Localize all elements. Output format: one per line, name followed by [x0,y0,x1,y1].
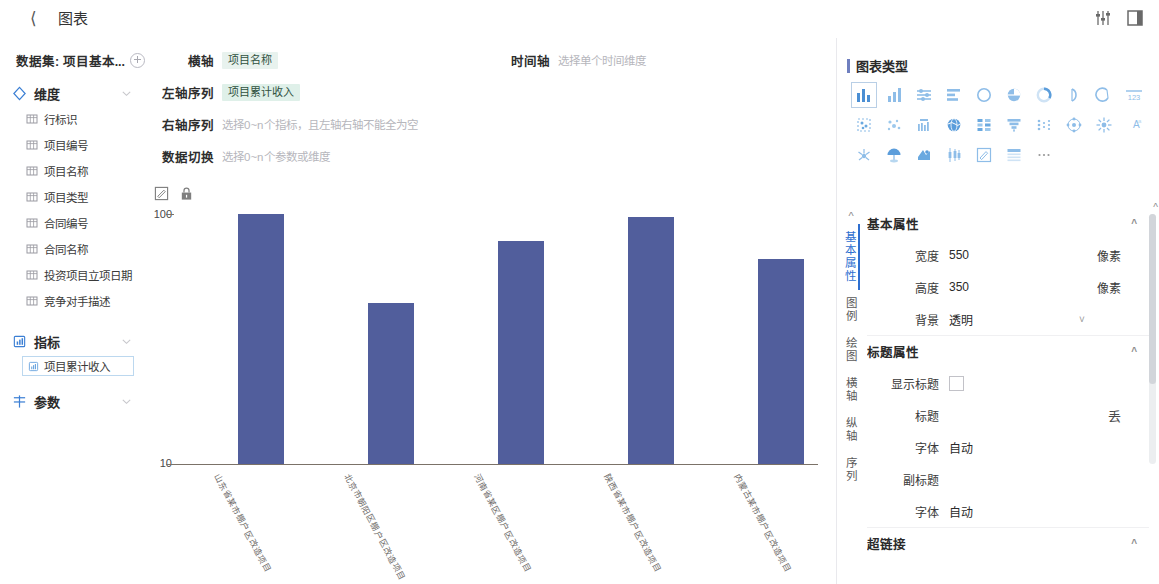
collapse-up-icon[interactable]: ^ [839,208,863,224]
chevron-down-icon[interactable] [121,88,132,99]
chart-type-stacked-grid[interactable] [971,112,997,138]
title-font-select[interactable]: 自动 [949,439,1149,456]
param-group: 参数 [0,388,148,414]
table-field-icon [26,295,38,307]
chart-type-text-edit[interactable] [971,142,997,168]
sidebar-item-metric[interactable]: 项目累计收入 [22,356,134,376]
property-row-width: 宽度 550 像素 [867,239,1149,271]
property-panel-scrollbar[interactable] [1149,214,1156,464]
chevron-up-icon[interactable]: ^ [1131,538,1137,549]
chart-type-number-123[interactable]: 123 [1121,82,1147,108]
chart-type-column-chart[interactable] [851,82,877,108]
chevron-up-icon[interactable]: ^ [1131,346,1137,357]
chevron-down-icon[interactable]: ˅ [1079,314,1097,325]
sidebar-item-dimension[interactable]: 合同编号 [0,210,148,236]
right-series-placeholder[interactable]: 选择0~n个指标，且左轴右轴不能全为空 [222,116,418,132]
x-axis-line [170,464,818,465]
bar-3[interactable] [628,217,674,464]
chart-type-radial-burst[interactable] [1091,112,1117,138]
sidebar-item-dimension[interactable]: 合同名称 [0,236,148,262]
subtitle-font-select[interactable]: 自动 [949,503,1149,520]
x-tick-label: 陕西省某市棚户区改造项目 [602,471,664,574]
chart-type-globe-map[interactable] [941,112,967,138]
property-label: 背景 [867,311,949,328]
chart-type-gauge-half[interactable] [1061,82,1087,108]
back-icon[interactable]: ⟨ [30,8,46,30]
bar-2[interactable] [498,241,544,464]
metric-group-header[interactable]: 指标 [0,328,148,354]
tab-y-axis[interactable]: 纵轴 [843,410,859,450]
chevron-up-icon[interactable]: ^ [1131,218,1137,229]
title-expression-icon[interactable]: 丢 [1108,406,1149,425]
x-axis-field-row: 横轴 项目名称 [158,50,278,70]
section-header-hyperlink[interactable]: 超链接 ^ [867,528,1149,559]
table-field-icon [26,139,38,151]
chevron-down-icon[interactable] [121,396,132,407]
chart-type-word-cloud[interactable]: Aa [1121,112,1147,138]
chevron-down-icon[interactable] [121,336,132,347]
chart-type-table[interactable] [1001,142,1027,168]
tab-x-axis[interactable]: 横轴 [843,370,859,410]
x-axis-value-chip[interactable]: 项目名称 [222,52,278,69]
left-series-value-chip[interactable]: 项目累计收入 [222,84,300,101]
x-tick-label: 内蒙古某市棚户区改造项目 [732,471,794,574]
data-switch-placeholder[interactable]: 选择0~n个参数或维度 [222,148,330,164]
bar-chart: 100 10 山东省某市棚户区改造项目 北京市朝阳区棚户区改造项目 河南省某区棚… [148,206,836,584]
property-row-background: 背景 透明 ˅ [867,303,1149,336]
chart-type-horizontal-bar[interactable] [941,82,967,108]
property-row-title-font: 字体 自动 [867,431,1149,463]
param-group-header[interactable]: 参数 [0,388,148,414]
chart-type-umbrella-tree[interactable] [881,142,907,168]
height-input[interactable]: 350 [949,280,1097,294]
right-series-field-row: 右轴序列 选择0~n个指标，且左轴右轴不能全为空 [158,114,418,134]
sidebar-item-dimension[interactable]: 项目类型 [0,184,148,210]
dataset-selector[interactable]: 数据集: 项目基本... [10,48,140,72]
tab-series[interactable]: 序列 [843,450,859,490]
layout-panel-icon[interactable] [1126,9,1144,27]
chart-type-bar-group[interactable] [881,82,907,108]
background-select[interactable]: 透明 [949,311,1079,328]
chart-type-pie-chart[interactable] [1001,82,1027,108]
sidebar-item-dimension[interactable]: 项目编号 [0,132,148,158]
property-label: 字体 [867,439,949,456]
chart-type-map-pin[interactable] [911,142,937,168]
data-switch-label: 数据切换 [158,147,214,166]
chart-type-donut-progress[interactable] [1031,82,1057,108]
chart-type-range-bar[interactable] [911,82,937,108]
property-unit: 像素 [1097,247,1149,264]
chart-type-gauge-arc[interactable] [1091,82,1117,108]
chart-type-funnel[interactable] [1001,112,1027,138]
chart-type-network-graph[interactable] [1061,112,1087,138]
scroll-up-icon[interactable]: ^ [1153,202,1158,213]
table-field-icon [26,269,38,281]
chart-type-sunburst[interactable] [851,142,877,168]
bar-4[interactable] [758,259,804,464]
chart-type-scatter-box[interactable] [851,112,877,138]
chart-type-candlestick[interactable] [941,142,967,168]
scrollbar-thumb[interactable] [1149,214,1156,384]
dimension-group-header[interactable]: 维度 [0,80,148,106]
time-axis-placeholder[interactable]: 选择单个时间维度 [558,52,646,68]
chart-type-bubble-scatter[interactable] [881,112,907,138]
tab-basic-properties[interactable]: 基本属性 [842,224,860,290]
section-header-basic[interactable]: 基本属性 ^ [867,208,1149,239]
sidebar-item-dimension[interactable]: 竞争对手描述 [0,288,148,314]
tab-legend[interactable]: 图例 [843,290,859,330]
edit-box-icon[interactable] [154,186,169,201]
chart-type-ring[interactable] [971,82,997,108]
width-input[interactable]: 550 [949,248,1097,262]
chart-type-more-dots[interactable] [1031,142,1057,168]
sidebar-item-dimension[interactable]: 行标识 [0,106,148,132]
sidebar-item-dimension[interactable]: 投资项目立项日期 [0,262,148,288]
sliders-icon[interactable] [1094,9,1112,27]
sidebar-item-dimension[interactable]: 项目名称 [0,158,148,184]
bar-1[interactable] [368,303,414,464]
lock-icon[interactable] [179,186,194,201]
chart-type-box-plot[interactable] [911,112,937,138]
show-title-checkbox[interactable] [949,376,964,391]
chart-type-dot-matrix[interactable] [1031,112,1057,138]
section-header-title[interactable]: 标题属性 ^ [867,336,1149,367]
tab-plot[interactable]: 绘图 [843,330,859,370]
bar-0[interactable] [238,214,284,464]
add-circle-icon[interactable] [130,53,145,68]
